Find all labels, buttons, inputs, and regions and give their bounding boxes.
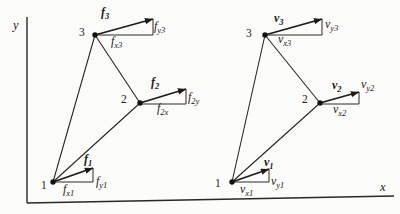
velocity-vector-3-label: v3 [274,11,284,27]
velocity-2-y-component-label: vy2 [361,77,375,93]
node-3-dot [92,32,97,37]
node-2-dot [137,100,142,105]
force-1-y-component-label: fy1 [96,174,107,190]
velocity-node-1: 1 v1 vx1 vy1 [215,155,284,198]
velocity-vector-2-label: v2 [332,78,342,94]
x-axis-line [27,196,394,203]
velocity-node-3: 3 v3 vx3 vy3 [246,11,338,48]
force-2-y-component-label: f2y [188,90,200,106]
force-element-edge-1-2 [53,103,140,182]
force-vector-1-arrow [53,168,93,182]
force-node-1: 1 f1 fx1 fy1 [41,152,107,198]
node-3-label: 3 [79,26,85,38]
node-3-dot [262,32,267,37]
force-element-diagram: 1 f1 fx1 fy1 2 f2 f2x f2y 3 f3 fx3 fy3 [41,5,200,198]
node-1-dot [50,179,55,184]
force-1-x-component-label: fx1 [63,182,74,198]
velocity-3-y-component-label: vy3 [325,17,338,33]
force-3-y-component-label: fy3 [154,19,165,35]
velocity-element-edge-2-3 [265,35,320,103]
y-axis-label: y [11,18,19,32]
triangle-element-figure: y x 1 f1 fx1 fy1 2 f2 f2x f2y [0,0,400,214]
velocity-vector-1-arrow [232,169,269,182]
node-2-label: 2 [302,93,308,105]
figure-canvas: y x 1 f1 fx1 fy1 2 f2 f2x f2y [0,0,400,214]
node-1-label: 1 [215,177,221,189]
x-axis-label: x [379,180,386,194]
velocity-vector-1-label: v1 [264,155,274,171]
node-2-label: 2 [121,93,127,105]
node-1-dot [229,179,234,184]
velocity-1-x-component-label: vx1 [240,182,253,198]
force-vector-1-label: f1 [84,152,92,168]
force-node-2: 2 f2 f2x f2y [121,75,200,117]
force-vector-2-label: f2 [151,75,160,91]
force-vector-3-label: f3 [101,5,110,21]
node-3-label: 3 [246,27,252,39]
velocity-vector-2-arrow [320,92,359,103]
velocity-element-diagram: 1 v1 vx1 vy1 2 v2 vx2 vy2 3 v3 vx3 vy3 [215,11,375,198]
velocity-3-x-component-label: vx3 [278,32,291,48]
velocity-element-edge-1-2 [232,103,320,182]
velocity-1-y-component-label: vy1 [271,174,284,190]
force-3-x-component-label: fx3 [111,34,122,50]
force-node-3: 3 f3 fx3 fy3 [79,5,165,50]
node-1-label: 1 [41,179,47,191]
force-vector-2-arrow [140,89,186,103]
node-2-dot [317,100,322,105]
velocity-node-2: 2 v2 vx2 vy2 [302,77,375,118]
force-vector-3-arrow [95,19,153,35]
force-2-x-component-label: f2x [157,101,169,117]
velocity-element-edge-3-1 [232,35,265,182]
